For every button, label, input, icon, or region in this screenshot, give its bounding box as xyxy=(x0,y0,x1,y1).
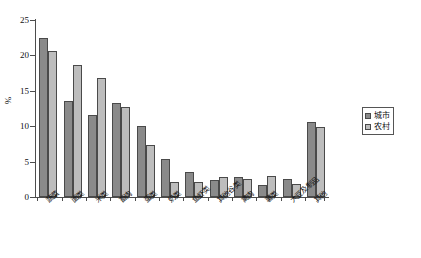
bar-农村-米类 xyxy=(97,78,106,197)
x-tick-薯类 xyxy=(256,197,257,201)
y-tick-10 xyxy=(30,126,35,127)
chart-legend: 城市 农村 xyxy=(362,107,394,135)
x-tick-鱼虾类 xyxy=(183,197,184,201)
y-tick-label-25: 25 xyxy=(3,16,29,25)
bar-城市-鱼虾类 xyxy=(185,172,194,197)
bar-城市-奶类 xyxy=(161,159,170,197)
legend-item-urban: 城市 xyxy=(365,110,390,121)
bar-城市-蔬菜 xyxy=(39,38,48,197)
bar-城市-畜肉 xyxy=(112,103,121,197)
y-axis-tick-labels: 25 20 15 10 5 0 xyxy=(0,0,29,258)
x-tick-奶类 xyxy=(159,197,160,201)
y-tick-label-0: 0 xyxy=(3,193,29,202)
bar-农村-畜肉 xyxy=(121,107,130,197)
x-tick-米类 xyxy=(86,197,87,201)
legend-swatch-rural-icon xyxy=(365,124,371,130)
bar-农村-面类 xyxy=(73,65,82,197)
x-tick-畜肉 xyxy=(110,197,111,201)
y-tick-15 xyxy=(30,91,35,92)
x-tick-其他谷类 xyxy=(208,197,209,201)
legend-label-urban: 城市 xyxy=(374,112,390,120)
x-tick-蛋类 xyxy=(135,197,136,201)
bar-chart: % 25 20 15 10 5 0 蔬菜面类米类畜肉蛋类奶类鱼虾类其他谷类禽肉薯… xyxy=(0,0,421,258)
bar-城市-其他谷类 xyxy=(210,180,219,197)
legend-label-rural: 农村 xyxy=(374,123,390,131)
y-tick-0 xyxy=(30,197,35,198)
y-tick-label-20: 20 xyxy=(3,51,29,60)
plot-area xyxy=(36,20,328,197)
legend-swatch-urban-icon xyxy=(365,113,371,119)
y-tick-20 xyxy=(30,55,35,56)
bar-农村-蔬菜 xyxy=(48,51,57,197)
bar-城市-大豆及制品 xyxy=(283,179,292,197)
bar-城市-面类 xyxy=(64,101,73,197)
legend-item-rural: 农村 xyxy=(365,121,390,132)
x-tick-end xyxy=(324,197,325,201)
x-tick-蔬菜 xyxy=(37,197,38,201)
x-tick-禽肉 xyxy=(232,197,233,201)
y-tick-label-5: 5 xyxy=(3,158,29,167)
y-tick-label-15: 15 xyxy=(3,87,29,96)
bar-农村-其他 xyxy=(316,127,325,197)
x-tick-其他 xyxy=(305,197,306,201)
x-tick-面类 xyxy=(62,197,63,201)
y-tick-25 xyxy=(30,20,35,21)
x-tick-大豆及制品 xyxy=(281,197,282,201)
y-tick-5 xyxy=(30,162,35,163)
bar-城市-蛋类 xyxy=(137,126,146,198)
bar-城市-米类 xyxy=(88,115,97,197)
y-tick-label-10: 10 xyxy=(3,122,29,131)
